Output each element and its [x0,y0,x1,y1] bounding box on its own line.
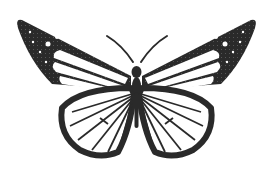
antennae [107,36,167,62]
left-forewing [17,20,131,92]
butterfly-illustration: Black and white illustration of a butter… [0,0,273,176]
butterfly-icon [0,0,273,176]
left-hindwing [61,88,134,156]
right-hindwing [139,88,212,156]
right-forewing [142,20,256,92]
